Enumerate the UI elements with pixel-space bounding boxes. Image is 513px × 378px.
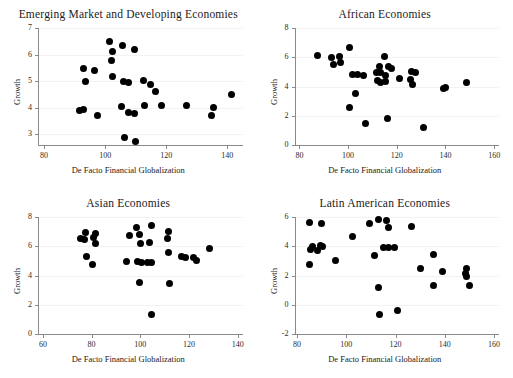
data-point xyxy=(131,46,138,53)
data-point xyxy=(371,252,378,259)
data-point xyxy=(306,261,313,268)
y-tick-label: 0 xyxy=(269,300,289,309)
y-axis-label: Growth xyxy=(269,79,279,105)
x-tick-label: 80 xyxy=(282,340,312,349)
x-tick xyxy=(140,335,141,338)
x-tick xyxy=(299,146,300,149)
y-axis-line xyxy=(38,217,39,334)
x-tick-label: 100 xyxy=(125,340,155,349)
grid-line xyxy=(295,217,500,218)
y-tick xyxy=(35,28,38,29)
panel-title: Asian Economies xyxy=(0,197,257,209)
panel-latin-american: Latin American Economies-202468010012014… xyxy=(257,189,513,378)
data-point xyxy=(375,284,382,291)
data-point xyxy=(384,115,391,122)
data-point xyxy=(430,251,437,258)
y-tick-label: 6 xyxy=(12,50,32,59)
x-tick xyxy=(238,335,239,338)
data-point xyxy=(83,253,90,260)
x-tick xyxy=(297,335,298,338)
y-tick-label: 2 xyxy=(269,111,289,120)
plot-area: 0246880100120140160 xyxy=(295,28,500,145)
y-tick-label: 7 xyxy=(12,23,32,32)
data-point xyxy=(409,81,416,88)
data-point xyxy=(106,38,113,45)
data-point xyxy=(137,240,144,247)
y-tick xyxy=(35,305,38,306)
data-point xyxy=(94,112,101,119)
data-point xyxy=(375,216,382,223)
data-point xyxy=(148,311,155,318)
x-tick xyxy=(43,335,44,338)
data-point xyxy=(430,282,437,289)
x-tick xyxy=(166,146,167,149)
data-point xyxy=(328,54,335,61)
grid-line xyxy=(295,57,500,58)
x-axis-label: De Facto Financial Globalization xyxy=(257,165,513,175)
y-tick-label: 2 xyxy=(12,300,32,309)
y-tick-label: 0 xyxy=(269,140,289,149)
data-point xyxy=(193,257,200,264)
panel-emerging-market: Emerging Market and Developing Economies… xyxy=(0,0,257,189)
plot-area: -2024680100120140160 xyxy=(295,217,500,334)
panel-asian: Asian Economies024686080100120140De Fact… xyxy=(0,189,257,378)
y-tick xyxy=(35,334,38,335)
x-tick-label: 100 xyxy=(333,151,363,160)
grid-line xyxy=(295,116,500,117)
y-tick xyxy=(35,217,38,218)
x-tick xyxy=(396,335,397,338)
data-point xyxy=(82,229,89,236)
data-point xyxy=(210,104,217,111)
data-point xyxy=(136,279,143,286)
grid-line xyxy=(295,305,500,306)
x-tick-label: 120 xyxy=(381,340,411,349)
data-point xyxy=(396,75,403,82)
y-tick xyxy=(292,28,295,29)
x-tick-label: 80 xyxy=(77,340,107,349)
y-tick-label: 3 xyxy=(12,129,32,138)
x-axis-label: De Facto Financial Globalization xyxy=(0,354,257,364)
data-point xyxy=(376,311,383,318)
data-point xyxy=(141,102,148,109)
x-tick-label: 120 xyxy=(382,151,412,160)
grid-line xyxy=(295,28,500,29)
grid-line xyxy=(38,276,243,277)
y-tick xyxy=(292,305,295,306)
y-tick-label: 4 xyxy=(269,241,289,250)
y-tick xyxy=(35,276,38,277)
data-point xyxy=(92,230,99,237)
data-point xyxy=(123,258,130,265)
data-point xyxy=(206,245,213,252)
data-point xyxy=(131,110,138,117)
y-tick-label: 6 xyxy=(12,241,32,250)
grid-line xyxy=(295,87,500,88)
data-point xyxy=(148,222,155,229)
x-tick xyxy=(227,146,228,149)
data-point xyxy=(314,247,321,254)
y-tick xyxy=(292,276,295,277)
data-point xyxy=(381,53,388,60)
x-tick xyxy=(44,146,45,149)
scatter-figure-grid: Emerging Market and Developing Economies… xyxy=(0,0,513,378)
data-point xyxy=(383,217,390,224)
data-point xyxy=(166,280,173,287)
grid-line xyxy=(38,217,243,218)
x-tick-label: 160 xyxy=(479,151,509,160)
data-point xyxy=(92,240,99,247)
data-point xyxy=(109,73,116,80)
data-point xyxy=(119,42,126,49)
data-point xyxy=(332,257,339,264)
y-tick xyxy=(35,108,38,109)
data-point xyxy=(408,223,415,230)
data-point xyxy=(382,78,389,85)
grid-line xyxy=(38,28,243,29)
data-point xyxy=(412,69,419,76)
y-tick xyxy=(35,55,38,56)
y-tick-label: 6 xyxy=(269,212,289,221)
data-point xyxy=(362,120,369,127)
data-point xyxy=(442,84,449,91)
y-axis-line xyxy=(295,217,296,334)
panel-african: African Economies0246880100120140160De F… xyxy=(257,0,513,189)
data-point xyxy=(165,249,172,256)
data-point xyxy=(126,232,133,239)
